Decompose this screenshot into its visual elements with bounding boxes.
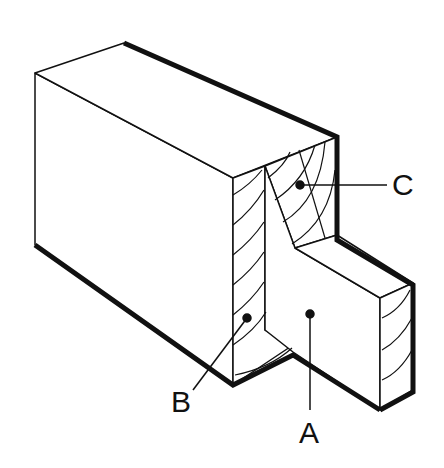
label-c: C xyxy=(392,168,414,201)
label-b: B xyxy=(171,385,191,418)
tongue-end-grain xyxy=(380,283,413,410)
wood-joint-diagram: C B A xyxy=(0,0,444,468)
label-a: A xyxy=(299,416,319,449)
